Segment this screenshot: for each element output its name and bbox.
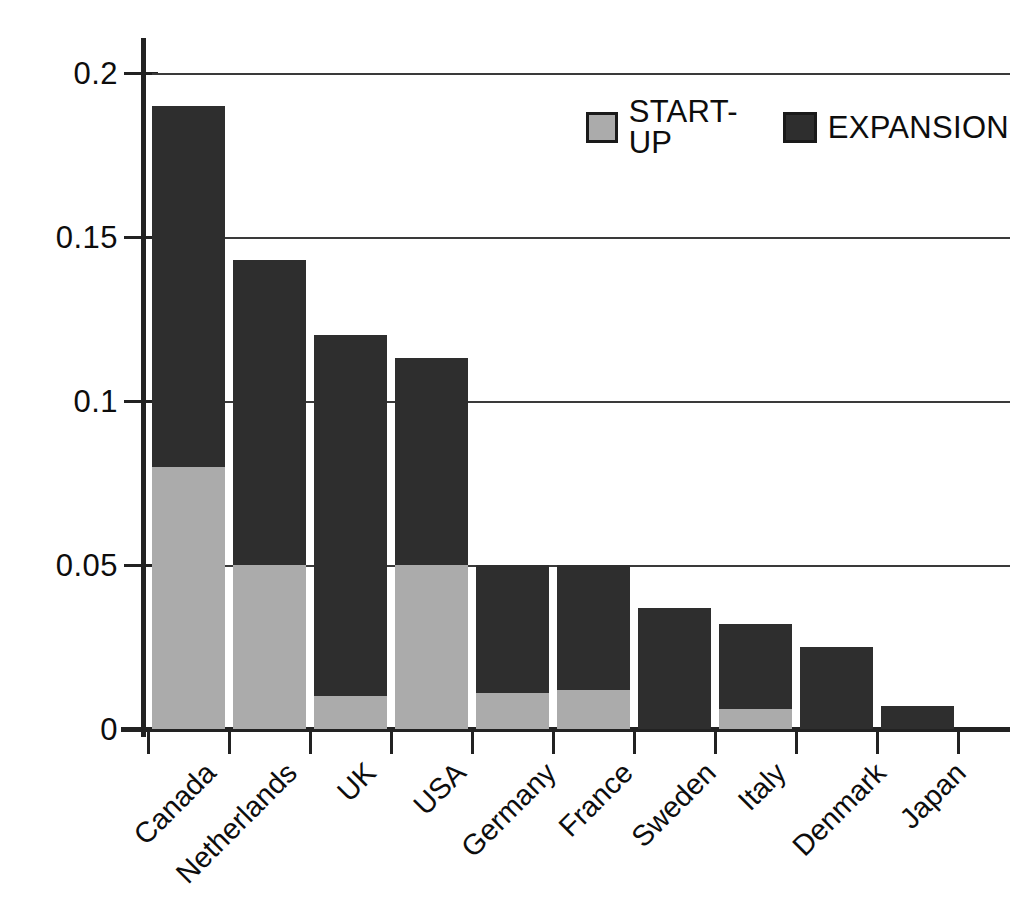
- bar-sweden-expansion[interactable]: [638, 608, 711, 729]
- y-axis-labels: 0.2 0.15 0.1 0.05 0: [0, 0, 118, 902]
- legend-swatch-expansion-icon: [783, 112, 817, 143]
- y-tick-label-0.2: 0.2: [8, 58, 118, 89]
- x-tick-mark-2: [309, 732, 312, 754]
- x-tick-mark-3: [390, 732, 393, 754]
- bar-germany-startup[interactable]: [476, 693, 549, 729]
- y-tick-label-0.15: 0.15: [8, 222, 118, 253]
- legend-item-startup[interactable]: START-UP: [586, 96, 769, 158]
- x-tick-mark-10: [957, 732, 960, 754]
- plot-area: [152, 73, 1010, 729]
- bar-netherlands-expansion[interactable]: [233, 260, 306, 565]
- x-tick-mark-8: [795, 732, 798, 754]
- bar-usa-startup[interactable]: [395, 565, 468, 729]
- bar-canada-expansion[interactable]: [152, 106, 225, 467]
- bar-canada-startup[interactable]: [152, 467, 225, 729]
- bar-italy-startup[interactable]: [719, 709, 792, 729]
- x-tick-mark-5: [552, 732, 555, 754]
- x-tick-mark-0: [147, 732, 150, 754]
- bar-denmark-expansion[interactable]: [800, 647, 873, 729]
- x-tick-mark-6: [633, 732, 636, 754]
- bar-france-startup[interactable]: [557, 690, 630, 729]
- chart-legend: START-UP EXPANSION: [586, 96, 1009, 158]
- bar-uk-startup[interactable]: [314, 696, 387, 729]
- y-tick-label-0.1: 0.1: [8, 386, 118, 417]
- x-tick-mark-1: [228, 732, 231, 754]
- bar-uk-expansion[interactable]: [314, 335, 387, 696]
- x-tick-label-uk: UK: [289, 757, 381, 849]
- y-tick-label-0.05: 0.05: [8, 550, 118, 581]
- legend-item-expansion[interactable]: EXPANSION: [783, 112, 1009, 143]
- legend-label-expansion: EXPANSION: [828, 112, 1009, 143]
- bar-netherlands-startup[interactable]: [233, 565, 306, 729]
- gridline-0.2: [152, 73, 1010, 75]
- bar-france-expansion[interactable]: [557, 565, 630, 690]
- gridline-0.15: [152, 237, 1010, 239]
- x-tick-mark-9: [876, 732, 879, 754]
- legend-swatch-startup-icon: [586, 112, 618, 143]
- x-tick-mark-4: [471, 732, 474, 754]
- x-tick-label-germany: Germany: [399, 757, 562, 902]
- y-axis-line: [141, 38, 146, 737]
- bar-usa-expansion[interactable]: [395, 358, 468, 565]
- bar-italy-expansion[interactable]: [719, 624, 792, 709]
- y-tick-label-0: 0: [8, 714, 118, 745]
- bar-japan-expansion[interactable]: [881, 706, 954, 729]
- legend-label-startup: START-UP: [629, 96, 769, 158]
- x-tick-mark-7: [714, 732, 717, 754]
- bar-germany-expansion[interactable]: [476, 565, 549, 693]
